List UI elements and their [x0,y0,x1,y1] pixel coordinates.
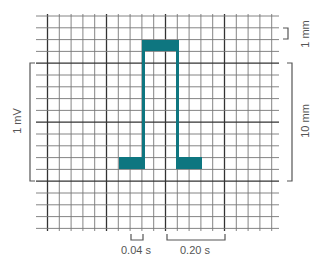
ecg-grid-diagram [0,0,321,266]
ten-mm-bracket [287,63,292,181]
voltage-label: 1 mV [11,106,23,136]
voltage-bracket [30,63,35,181]
small-time-bracket [131,234,143,240]
ten-mm-label: 10 mm [299,101,311,141]
large-time-label: 0.20 s [180,244,210,256]
small-time-label: 0.04 s [121,244,151,256]
one-mm-label: 1 mm [299,19,311,49]
large-time-bracket [167,234,225,240]
one-mm-bracket [283,28,288,39]
